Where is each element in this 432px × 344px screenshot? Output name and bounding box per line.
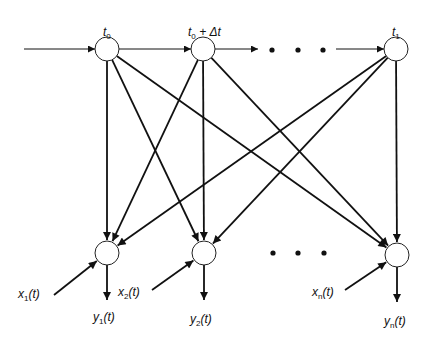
edge-t1-to-nn <box>396 61 397 242</box>
node-nn <box>385 243 409 267</box>
edge-layer <box>24 49 397 302</box>
ellipsis-dot <box>320 47 325 52</box>
time-label-t0dt: t0 + Δt <box>188 26 221 41</box>
node-n1 <box>95 241 119 265</box>
ellipsis-dot <box>295 47 300 52</box>
output-label-nn: yn(t) <box>384 315 406 330</box>
input-arrow <box>54 261 97 295</box>
edge-t0dt-to-n2 <box>203 61 204 240</box>
ellipsis-dot <box>295 250 300 255</box>
input-label-n1: x1(t) <box>18 288 40 303</box>
input-label-n2: x2(t) <box>118 286 140 301</box>
time-label-t1: t1 <box>392 26 400 41</box>
output-label-n2: y2(t) <box>190 313 212 328</box>
time-label-t0: t0 <box>103 26 111 41</box>
ellipsis-dot <box>270 250 275 255</box>
edge-t1-to-n2 <box>213 58 388 244</box>
ellipsis-layer <box>269 47 326 255</box>
ellipsis-dot <box>321 250 326 255</box>
input-arrow <box>152 261 193 290</box>
output-label-n1: y1(t) <box>93 311 115 326</box>
input-label-nn: xn(t) <box>312 286 334 301</box>
input-arrow <box>345 262 386 290</box>
node-n2 <box>192 241 216 265</box>
ellipsis-dot <box>269 47 274 52</box>
time-unrolled-network-diagram <box>0 0 432 344</box>
